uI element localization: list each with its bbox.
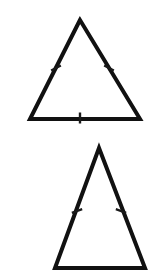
geometry-figure <box>0 0 152 276</box>
geometry-canvas <box>0 0 152 276</box>
